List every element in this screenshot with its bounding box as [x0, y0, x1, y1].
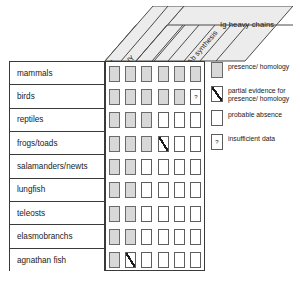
cell-birds-g-y[interactable] — [139, 85, 155, 108]
cell-frogs-toads-d[interactable] — [171, 132, 187, 155]
cell-teleosts-ab-synthesis[interactable] — [106, 202, 122, 225]
cell-marker-present — [109, 182, 120, 198]
cell-elasmobranchs-d[interactable] — [171, 225, 187, 248]
taxon-label-birds: birds — [10, 85, 104, 108]
cell-salamanders-newts-e[interactable] — [188, 155, 204, 178]
cell-marker-partial — [158, 136, 169, 152]
cell-marker-present — [174, 89, 185, 105]
cell-marker-absent — [174, 252, 185, 268]
cell-reptiles-a[interactable] — [155, 109, 171, 132]
cell-agnathan-fish-m[interactable] — [122, 249, 138, 272]
cell-marker-present — [141, 89, 152, 105]
matrix-row — [106, 179, 204, 202]
cell-mammals-ab-synthesis[interactable] — [106, 62, 122, 85]
cell-teleosts-e[interactable] — [188, 202, 204, 225]
cell-reptiles-g-y[interactable] — [139, 109, 155, 132]
legend-swatch-present-icon — [211, 62, 223, 78]
cell-marker-present — [190, 66, 201, 82]
cell-marker-present — [141, 136, 152, 152]
cell-marker-absent — [190, 136, 201, 152]
cell-marker-present — [109, 159, 120, 175]
cell-marker-absent — [174, 159, 185, 175]
cell-elasmobranchs-g-y[interactable] — [139, 225, 155, 248]
cell-teleosts-a[interactable] — [155, 202, 171, 225]
cell-elasmobranchs-e[interactable] — [188, 225, 204, 248]
taxon-label-frogs-toads: frogs/toads — [10, 132, 104, 155]
cell-marker-present — [125, 159, 136, 175]
cell-reptiles-e[interactable] — [188, 109, 204, 132]
cell-teleosts-m[interactable] — [122, 202, 138, 225]
cell-lungfish-ab-synthesis[interactable] — [106, 179, 122, 202]
cell-marker-absent — [174, 206, 185, 222]
taxon-label-reptiles: reptiles — [10, 109, 104, 132]
cell-marker-absent — [190, 112, 201, 128]
cell-reptiles-d[interactable] — [171, 109, 187, 132]
cell-birds-e[interactable] — [188, 85, 204, 108]
legend-swatch-unknown-icon — [211, 134, 223, 150]
cell-mammals-m[interactable] — [122, 62, 138, 85]
cell-salamanders-newts-a[interactable] — [155, 155, 171, 178]
cell-reptiles-m[interactable] — [122, 109, 138, 132]
cell-marker-absent — [174, 182, 185, 198]
cell-salamanders-newts-ab-synthesis[interactable] — [106, 155, 122, 178]
cell-agnathan-fish-a[interactable] — [155, 249, 171, 272]
cell-agnathan-fish-ab-synthesis[interactable] — [106, 249, 122, 272]
cell-mammals-e[interactable] — [188, 62, 204, 85]
cell-marker-absent — [141, 159, 152, 175]
cell-lungfish-g-y[interactable] — [139, 179, 155, 202]
matrix-row — [106, 249, 204, 272]
cell-marker-present — [141, 66, 152, 82]
cell-agnathan-fish-e[interactable] — [188, 249, 204, 272]
cell-marker-absent — [174, 112, 185, 128]
legend-label-partial: partial evidence forpresence/ homology — [228, 86, 289, 103]
cell-frogs-toads-a[interactable] — [155, 132, 171, 155]
cell-frogs-toads-e[interactable] — [188, 132, 204, 155]
cell-elasmobranchs-a[interactable] — [155, 225, 171, 248]
cell-birds-a[interactable] — [155, 85, 171, 108]
column-header-banner: Ig heavy chains Ab synthesis M G/Y A D E — [88, 6, 293, 62]
cell-agnathan-fish-d[interactable] — [171, 249, 187, 272]
data-matrix — [105, 61, 205, 271]
cell-marker-present — [109, 66, 120, 82]
cell-marker-absent — [158, 182, 169, 198]
cell-frogs-toads-g-y[interactable] — [139, 132, 155, 155]
header-group-label-ig-heavy-chains: Ig heavy chains — [220, 20, 274, 29]
cell-mammals-d[interactable] — [171, 62, 187, 85]
cell-elasmobranchs-ab-synthesis[interactable] — [106, 225, 122, 248]
cell-marker-present — [158, 66, 169, 82]
cell-marker-present — [158, 89, 169, 105]
cell-birds-m[interactable] — [122, 85, 138, 108]
cell-salamanders-newts-g-y[interactable] — [139, 155, 155, 178]
cell-reptiles-ab-synthesis[interactable] — [106, 109, 122, 132]
cell-mammals-a[interactable] — [155, 62, 171, 85]
matrix-row — [106, 155, 204, 178]
cell-lungfish-a[interactable] — [155, 179, 171, 202]
legend-entry-present: presence/ homology — [211, 62, 299, 78]
cell-marker-absent — [190, 182, 201, 198]
cell-marker-present — [109, 112, 120, 128]
cell-frogs-toads-ab-synthesis[interactable] — [106, 132, 122, 155]
cell-teleosts-d[interactable] — [171, 202, 187, 225]
cell-lungfish-m[interactable] — [122, 179, 138, 202]
cell-marker-absent — [158, 252, 169, 268]
cell-frogs-toads-m[interactable] — [122, 132, 138, 155]
immunoglobulin-phylogeny-table: Ig heavy chains Ab synthesis M G/Y A D E… — [0, 0, 301, 281]
cell-birds-ab-synthesis[interactable] — [106, 85, 122, 108]
matrix-row — [106, 225, 204, 248]
cell-marker-present — [125, 89, 136, 105]
cell-birds-d[interactable] — [171, 85, 187, 108]
cell-marker-absent — [158, 159, 169, 175]
cell-lungfish-d[interactable] — [171, 179, 187, 202]
cell-marker-present — [125, 66, 136, 82]
cell-teleosts-g-y[interactable] — [139, 202, 155, 225]
cell-marker-absent — [158, 206, 169, 222]
cell-lungfish-e[interactable] — [188, 179, 204, 202]
cell-elasmobranchs-m[interactable] — [122, 225, 138, 248]
cell-salamanders-newts-m[interactable] — [122, 155, 138, 178]
cell-agnathan-fish-g-y[interactable] — [139, 249, 155, 272]
legend-entry-absent: probable absence — [211, 110, 299, 126]
cell-salamanders-newts-d[interactable] — [171, 155, 187, 178]
cell-mammals-g-y[interactable] — [139, 62, 155, 85]
cell-marker-present — [141, 112, 152, 128]
cell-marker-present — [125, 182, 136, 198]
